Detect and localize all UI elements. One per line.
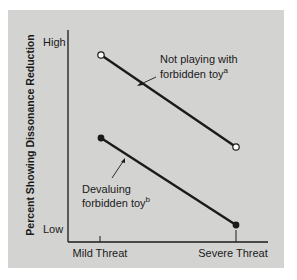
annotation-devaluing-line1: Devaluing	[82, 183, 131, 195]
line-chart: Percent Showing Dissonance Reduction Hig…	[0, 0, 297, 280]
annotation-devaluing-text: forbidden toy	[82, 197, 146, 209]
annotation-devaluing-line2: forbidden toyb	[82, 195, 151, 209]
annotation-not-playing-text: forbidden toy	[160, 68, 224, 80]
arrowhead-icon	[121, 158, 125, 163]
superscript-b: b	[146, 195, 151, 204]
y-axis-label: Percent Showing Dissonance Reduction	[24, 34, 36, 235]
superscript-a: a	[224, 66, 229, 75]
x-tick-label-mild: Mild Threat	[73, 247, 128, 259]
annotation-not-playing-line1: Not playing with	[160, 53, 238, 65]
x-tick-label-severe: Severe Threat	[198, 247, 268, 259]
y-tick-high: High	[43, 36, 66, 48]
point-devaluing-mild	[98, 135, 105, 142]
series-devaluing-line	[101, 138, 236, 225]
point-not-playing-mild	[98, 52, 104, 58]
point-not-playing-severe	[233, 144, 239, 150]
point-devaluing-severe	[233, 222, 240, 229]
y-tick-low: Low	[43, 223, 63, 235]
annotation-not-playing-line2: forbidden toya	[160, 66, 229, 80]
annotation-pointer-devaluing	[112, 160, 124, 178]
